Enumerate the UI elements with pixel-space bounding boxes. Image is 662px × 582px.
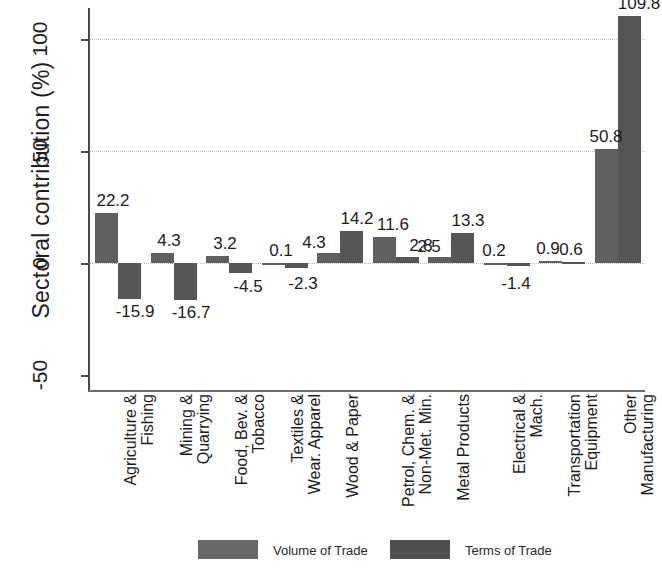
bar-group: [595, 8, 641, 392]
x-label-line: Wear. Apparel: [306, 394, 323, 494]
bar-group: [206, 8, 252, 392]
x-label-line: Textiles &: [289, 394, 306, 462]
bar-value-label: 4.3: [291, 233, 337, 253]
x-axis-label-9: OtherManufacturing: [622, 394, 656, 524]
bar-vol[interactable]: [95, 213, 118, 263]
x-label-line: Manufacturing: [639, 394, 656, 495]
y-tick-label-50: 50: [28, 121, 52, 181]
bar-value-label: -1.4: [493, 274, 539, 294]
bar-group: [317, 8, 363, 392]
x-label-line: Agriculture &: [122, 394, 139, 486]
bar-vol[interactable]: [262, 263, 285, 265]
x-label-line: Wood & Paper: [344, 394, 361, 498]
x-label-line: Quarrying: [195, 394, 212, 464]
y-tick-mark-100: [81, 39, 89, 41]
bar-value-label: 3.2: [202, 234, 248, 254]
x-label-line: Other: [622, 394, 639, 434]
x-label-line: Mach.: [528, 394, 545, 438]
x-label-line: Transportation: [566, 394, 583, 497]
legend-label: Terms of Trade: [465, 543, 552, 558]
bar-value-label: 11.6: [370, 215, 416, 235]
bar-term[interactable]: [285, 263, 308, 268]
bar-value-label: 2.5: [406, 237, 452, 257]
bar-group: [428, 8, 474, 392]
bar-value-label: 22.2: [90, 191, 136, 211]
bar-group: [539, 8, 585, 392]
x-label-line: Tobacco: [250, 394, 267, 454]
bar-term[interactable]: [507, 263, 530, 266]
bar-value-label: 0.6: [548, 240, 594, 260]
y-tick-label-100: 100: [28, 9, 52, 69]
legend-label: Volume of Trade: [273, 543, 368, 558]
x-label-line: Non-Met. Min.: [417, 394, 434, 494]
y-tick-label-0: 0: [28, 233, 52, 293]
bar-term[interactable]: [396, 257, 419, 263]
x-axis-category-labels: Agriculture &FishingMining &QuarryingFoo…: [88, 396, 645, 526]
bar-term[interactable]: [229, 263, 252, 273]
bar-term[interactable]: [174, 263, 197, 300]
bar-vol[interactable]: [595, 149, 618, 263]
bar-vol[interactable]: [428, 257, 451, 263]
bar-vol[interactable]: [317, 253, 340, 263]
bar-value-label: -16.7: [168, 303, 214, 323]
x-label-line: Food, Bev. &: [233, 394, 250, 485]
y-tick-mark--50: [81, 375, 89, 377]
bar-group: [262, 8, 308, 392]
legend-swatch-vol: [198, 540, 258, 559]
bar-group: [484, 8, 530, 392]
x-axis-label-8: TransportationEquipment: [566, 394, 600, 524]
x-label-line: Metal Products: [455, 394, 472, 501]
legend-swatch-term: [390, 540, 450, 559]
x-label-line: Electrical &: [511, 394, 528, 474]
bar-term[interactable]: [118, 263, 141, 299]
x-label-line: Petrol, Chem. &: [400, 394, 417, 507]
bar-value-label: -2.3: [280, 274, 326, 294]
x-label-line: Equipment: [583, 394, 600, 471]
x-axis-label-4: Wood & Paper: [344, 394, 361, 524]
bar-vol[interactable]: [151, 253, 174, 263]
bar-vol[interactable]: [539, 261, 562, 263]
bar-group: [151, 8, 197, 392]
bar-vol[interactable]: [206, 256, 229, 263]
bar-value-label: 50.8: [583, 127, 629, 147]
x-axis-label-6: Metal Products: [455, 394, 472, 524]
x-axis-label-1: Mining &Quarrying: [178, 394, 212, 524]
bar-value-label: 4.3: [146, 231, 192, 251]
x-axis-label-5: Petrol, Chem. &Non-Met. Min.: [400, 394, 434, 524]
y-tick-label--50: -50: [28, 345, 52, 405]
plot-area: -50050100 22.2-15.94.3-16.73.2-4.50.1-2.…: [88, 8, 645, 392]
chart-legend: Volume of TradeTerms of Trade: [0, 538, 655, 568]
bar-vol[interactable]: [373, 237, 396, 263]
x-axis-label-2: Food, Bev. &Tobacco: [233, 394, 267, 524]
bar-value-label: -15.9: [112, 302, 158, 322]
bar-vol[interactable]: [484, 263, 507, 265]
bar-term[interactable]: [340, 231, 363, 263]
x-axis-label-0: Agriculture &Fishing: [122, 394, 156, 524]
bar-term[interactable]: [562, 262, 585, 264]
x-axis-label-3: Textiles &Wear. Apparel: [289, 394, 323, 524]
bar-value-label: 13.3: [445, 211, 491, 231]
y-tick-mark-50: [81, 151, 89, 153]
x-axis-label-7: Electrical &Mach.: [511, 394, 545, 524]
bar-value-label: 109.8: [616, 0, 662, 14]
bar-value-label: 0.2: [471, 241, 517, 261]
x-label-line: Fishing: [139, 394, 156, 446]
y-tick-mark-0: [81, 263, 89, 265]
bar-group: [373, 8, 419, 392]
bar-value-label: -4.5: [225, 277, 271, 297]
x-label-line: Mining &: [178, 394, 195, 456]
